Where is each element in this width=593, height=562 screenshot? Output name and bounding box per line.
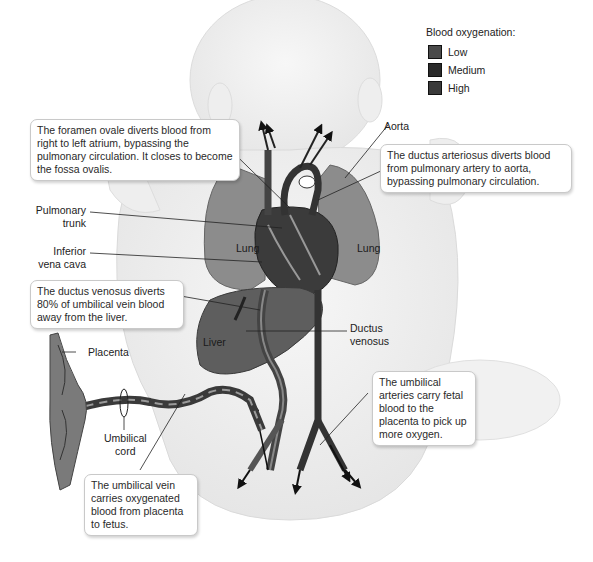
callout-ductus-venosus: The ductus venosus diverts 80% of umbili…: [30, 280, 184, 329]
label-ivc-line2: vena cava: [30, 258, 86, 271]
label-aorta: Aorta: [384, 120, 409, 133]
label-pulmonary-trunk-line2: trunk: [30, 217, 86, 230]
label-pulmonary-trunk-line1: Pulmonary: [30, 204, 86, 217]
legend-title: Blood oxygenation:: [426, 26, 515, 38]
callout-foramen-ovale: The foramen ovale diverts blood from rig…: [30, 119, 240, 181]
callout-umbilical-arteries: The umbilical arteries carry fetal blood…: [372, 371, 476, 446]
label-placenta: Placenta: [88, 346, 129, 359]
placenta: [50, 333, 87, 490]
label-inferior-vena-cava: Inferior vena cava: [30, 245, 86, 271]
label-pulmonary-trunk: Pulmonary trunk: [30, 204, 86, 230]
legend-label-low: Low: [448, 46, 467, 58]
legend-item-low: Low: [428, 45, 467, 59]
legend-label-high: High: [448, 82, 470, 94]
label-umbilical-cord-line1: Umbilical: [104, 432, 147, 445]
legend-swatch-high: [428, 81, 442, 95]
label-ductus-venosus: Ductus venosus: [350, 322, 389, 348]
label-lung-right: Lung: [357, 242, 380, 254]
legend-item-medium: Medium: [428, 63, 485, 77]
callout-ductus-arteriosus: The ductus arteriosus diverts blood from…: [380, 144, 572, 193]
label-umbilical-cord-line2: cord: [104, 445, 147, 458]
callout-umbilical-vein: The umbilical vein carries oxygenated bl…: [84, 474, 198, 536]
legend-label-medium: Medium: [448, 64, 485, 76]
label-umbilical-cord: Umbilical cord: [104, 432, 147, 458]
label-ductus-venosus-line1: Ductus: [350, 322, 389, 335]
label-ductus-venosus-line2: venosus: [350, 335, 389, 348]
legend-item-high: High: [428, 81, 470, 95]
legend-swatch-medium: [428, 63, 442, 77]
label-lung-left: Lung: [236, 242, 259, 254]
label-liver: Liver: [203, 336, 226, 348]
label-ivc-line1: Inferior: [30, 245, 86, 258]
legend-swatch-low: [428, 45, 442, 59]
